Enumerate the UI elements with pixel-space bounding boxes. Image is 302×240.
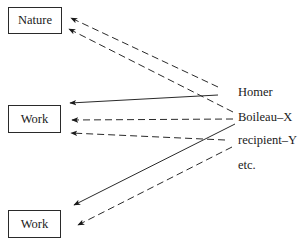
homer-label: Homer [238, 85, 273, 100]
arrow-boileau-area-to-nature [69, 29, 233, 112]
arrow-boileau-area-to-work-2 [74, 124, 235, 205]
nature-box-label: Nature [18, 13, 52, 28]
arrow-homer-area-to-work-1 [70, 95, 218, 103]
nature-box: Nature [8, 7, 62, 34]
arrow-boileau-area-to-work-1 [72, 119, 233, 120]
work-box-upper: Work [8, 105, 61, 133]
work-box-upper-label: Work [21, 112, 48, 127]
boileau-x-label: Boileau–X [238, 110, 292, 125]
arrow-recipient-area-to-work-1 [71, 133, 225, 140]
arrow-homer-area-to-nature [71, 18, 218, 87]
work-box-lower-label: Work [21, 217, 48, 232]
arrow-recipient-area-to-work-2 [78, 147, 232, 225]
recipient-y-label: recipient–Y [238, 133, 297, 148]
work-box-lower: Work [8, 210, 61, 238]
etc-label: etc. [238, 158, 256, 173]
